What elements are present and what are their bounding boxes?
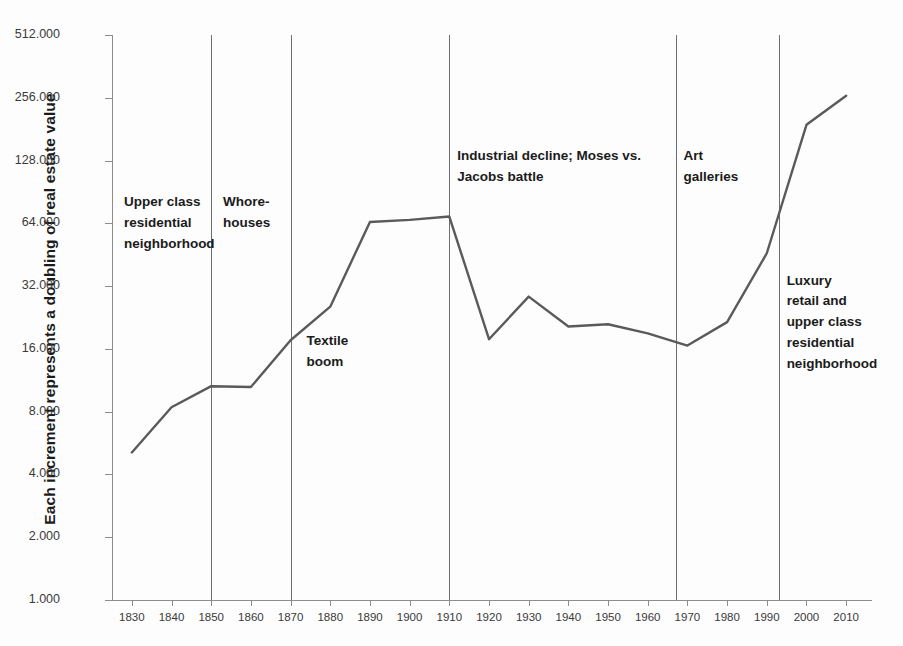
y-tick-2: [105, 537, 112, 538]
annotation-industrial-decline: Industrial decline; Moses vs. Jacobs bat…: [457, 146, 641, 188]
y-tick-label-64: 64.000: [0, 215, 60, 229]
y-tick-label-512: 512.000: [0, 27, 60, 41]
y-tick-label-1: 1.000: [0, 592, 60, 606]
plot-area: 1.0002.0004.0008.00016.00032.00064.00012…: [112, 35, 866, 600]
y-tick-label-256: 256.000: [0, 90, 60, 104]
annotation-art-galleries: Art galleries: [683, 146, 738, 188]
y-tick-16: [105, 349, 112, 350]
y-tick-label-8: 8.000: [0, 404, 60, 418]
y-tick-label-128: 128.000: [0, 153, 60, 167]
y-tick-label-2: 2.000: [0, 529, 60, 543]
chart-page: Each increment represents a doubling of …: [0, 0, 903, 646]
y-tick-4: [105, 474, 112, 475]
annotation-upper-class-residential: Upper class residential neighborhood: [124, 192, 215, 255]
y-tick-128: [105, 161, 112, 162]
annotation-luxury-retail: Luxury retail and upper class residentia…: [787, 271, 878, 376]
y-tick-label-16: 16.000: [0, 341, 60, 355]
value-line-series: [112, 35, 872, 605]
y-tick-512: [105, 35, 112, 36]
y-tick-1: [105, 600, 112, 601]
y-tick-256: [105, 98, 112, 99]
annotation-whorehouses: Whore- houses: [223, 192, 270, 234]
x-tick-label-2010: 2010: [823, 611, 869, 623]
y-tick-8: [105, 412, 112, 413]
y-tick-32: [105, 286, 112, 287]
annotation-textile-boom: Textile boom: [306, 331, 348, 373]
y-tick-64: [105, 223, 112, 224]
y-tick-label-4: 4.000: [0, 466, 60, 480]
y-tick-label-32: 32.000: [0, 278, 60, 292]
y-axis-title: Each increment represents a doubling of …: [41, 29, 59, 589]
